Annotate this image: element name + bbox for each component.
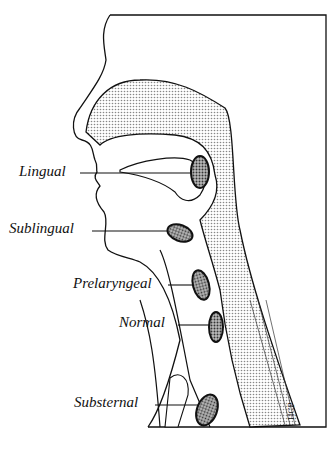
label-substernal: Substernal <box>74 394 138 411</box>
label-sublingual: Sublingual <box>9 220 74 237</box>
signature: HCP <box>286 402 296 420</box>
substernal-gland <box>192 392 222 429</box>
face-profile <box>73 15 180 427</box>
label-lingual: Lingual <box>19 163 66 180</box>
label-normal: Normal <box>119 314 165 331</box>
sublingual-gland <box>165 221 195 245</box>
lingual-gland <box>191 156 209 188</box>
normal-gland <box>209 312 223 342</box>
pharynx-region <box>86 80 300 427</box>
label-prelaryngeal: Prelaryngeal <box>73 275 152 292</box>
